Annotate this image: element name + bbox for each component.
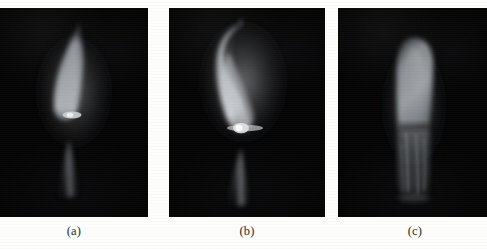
flame-graphic-a [0,8,148,217]
flame-hotspot-core-b [235,125,242,131]
flame-svg-b [169,8,325,217]
panel-caption-c: (c) [375,224,455,239]
flame-hotspot-core-a [67,113,74,118]
flame-seam-c [396,123,431,130]
flame-svg-c [338,8,487,217]
flame-photo-b [169,8,325,217]
flame-graphic-c [338,8,487,217]
flame-svg-a [0,8,148,217]
panel-caption-a: (a) [34,224,114,239]
figure-container: (a) [0,0,487,249]
flame-photo-c [338,8,487,217]
panel-caption-b: (b) [207,224,287,239]
flame-inner-streak-c [404,46,424,125]
flame-photo-a [0,8,148,217]
flame-base-glow-c [398,194,430,202]
flame-graphic-b [169,8,325,217]
